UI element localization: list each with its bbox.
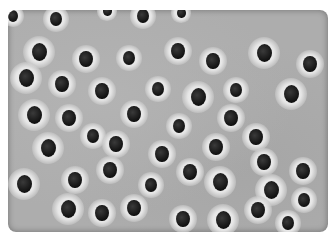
cell-nucleus	[155, 146, 169, 162]
cell-nucleus	[224, 110, 238, 126]
cell-nucleus	[95, 83, 109, 99]
cell-nucleus	[216, 211, 231, 229]
cell-nucleus	[213, 173, 228, 191]
cell-nucleus	[50, 12, 62, 26]
cell-nucleus	[171, 43, 185, 59]
cell-nucleus	[209, 139, 223, 155]
cell-nucleus	[257, 154, 271, 170]
cell-nucleus	[206, 53, 220, 69]
cell-nucleus	[27, 106, 42, 124]
cell-nucleus	[183, 164, 197, 180]
cell-nucleus	[79, 51, 93, 67]
cell-nucleus	[55, 76, 69, 92]
cell-nucleus	[257, 44, 272, 62]
cell-nucleus	[32, 43, 47, 61]
cell-nucleus	[68, 172, 82, 188]
cell-nucleus	[264, 181, 279, 199]
cell-nucleus	[152, 82, 164, 96]
cell-nucleus	[173, 119, 185, 133]
cell-nucleus	[41, 139, 56, 157]
cell-nucleus	[95, 205, 109, 221]
cell-nucleus	[230, 83, 242, 97]
cell-nucleus	[61, 200, 76, 218]
cell-nucleus	[296, 163, 310, 179]
cell-nucleus	[127, 200, 141, 216]
micrograph-image	[8, 10, 328, 232]
cell-nucleus	[103, 162, 117, 178]
cell-nucleus	[87, 129, 99, 143]
cell-nucleus	[298, 193, 310, 207]
cell-nucleus	[251, 202, 265, 218]
cell-nucleus	[17, 175, 32, 193]
cell-nucleus	[19, 69, 34, 87]
cell-nucleus	[177, 10, 186, 18]
cell-nucleus	[145, 178, 157, 192]
cell-nucleus	[109, 136, 123, 152]
cell-nucleus	[191, 88, 206, 106]
cell-nucleus	[62, 110, 76, 126]
cell-nucleus	[284, 85, 299, 103]
cell-nucleus	[282, 216, 294, 230]
cell-nucleus	[127, 106, 141, 122]
cell-nucleus	[123, 51, 135, 65]
cell-nucleus	[303, 56, 317, 72]
cell-nucleus	[249, 129, 263, 145]
cell-nucleus	[176, 211, 190, 227]
